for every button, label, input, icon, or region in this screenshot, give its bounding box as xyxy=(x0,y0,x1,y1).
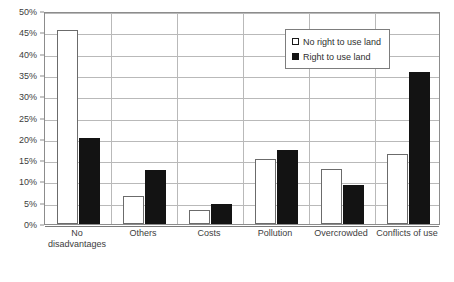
y-axis-tick-label: 15% xyxy=(19,156,37,166)
y-axis-tick-label: 50% xyxy=(19,7,37,17)
x-axis-tick-label: Overcrowded xyxy=(308,228,374,239)
bar xyxy=(343,185,364,224)
x-axis-tick-label: No disadvantages xyxy=(44,228,110,250)
bar xyxy=(321,169,342,224)
bar xyxy=(387,154,408,224)
bar-group xyxy=(45,13,111,224)
gridline-horizontal xyxy=(45,226,439,227)
x-axis: No disadvantagesOthersCostsPollutionOver… xyxy=(44,228,440,278)
bar xyxy=(409,72,430,224)
bar-chart: 0%5%10%15%20%25%30%35%40%45%50% No disad… xyxy=(0,0,454,282)
y-axis-tick-label: 0% xyxy=(24,220,37,230)
bar xyxy=(79,138,100,224)
bar xyxy=(277,150,298,224)
y-axis-tick-label: 40% xyxy=(19,50,37,60)
x-axis-tick-label: Conflicts of use xyxy=(374,228,440,239)
bar xyxy=(145,170,166,224)
y-axis: 0%5%10%15%20%25%30%35%40%45%50% xyxy=(0,0,44,282)
y-axis-tick-label: 30% xyxy=(19,92,37,102)
y-axis-tick-label: 5% xyxy=(24,199,37,209)
bar xyxy=(57,30,78,224)
y-axis-tick-label: 20% xyxy=(19,135,37,145)
legend-item-label: No right to use land xyxy=(303,37,381,47)
bar xyxy=(211,204,232,224)
y-axis-tick-label: 25% xyxy=(19,114,37,124)
legend-item-0: No right to use land xyxy=(292,34,381,49)
x-axis-tick-label: Others xyxy=(110,228,176,239)
x-axis-tick-label: Pollution xyxy=(242,228,308,239)
y-axis-tick-label: 35% xyxy=(19,71,37,81)
bar xyxy=(189,210,210,224)
bar xyxy=(255,159,276,224)
chart-legend: No right to use land Right to use land xyxy=(285,29,390,69)
y-axis-tick-label: 10% xyxy=(19,177,37,187)
legend-item-label: Right to use land xyxy=(303,52,371,62)
legend-item-1: Right to use land xyxy=(292,49,381,64)
y-axis-tick-label: 45% xyxy=(19,28,37,38)
legend-swatch-filled-square-icon xyxy=(292,53,299,60)
bar-group xyxy=(177,13,243,224)
bar-group xyxy=(111,13,177,224)
x-axis-tick-label: Costs xyxy=(176,228,242,239)
bar xyxy=(123,196,144,224)
legend-swatch-open-square-icon xyxy=(292,38,299,45)
